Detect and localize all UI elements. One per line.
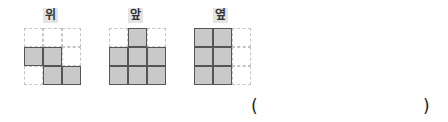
- filled-cell: [43, 66, 62, 85]
- top-view-grid: [24, 28, 81, 85]
- filled-cell: [194, 66, 213, 85]
- answer-blank[interactable]: [265, 96, 420, 116]
- filled-cell: [128, 28, 147, 47]
- empty-cell: [232, 47, 251, 66]
- answer-close-paren: ): [423, 96, 430, 116]
- filled-cell: [194, 28, 213, 47]
- empty-cell: [147, 28, 166, 47]
- front-view-label: 앞: [128, 8, 143, 23]
- empty-cell: [24, 28, 43, 47]
- front-view-grid: [109, 28, 166, 85]
- filled-cell: [213, 28, 232, 47]
- filled-cell: [213, 47, 232, 66]
- empty-cell: [232, 66, 251, 85]
- top-view-label: 위: [43, 8, 58, 23]
- filled-cell: [109, 66, 128, 85]
- filled-cell: [109, 47, 128, 66]
- empty-cell: [62, 47, 81, 66]
- empty-cell: [24, 66, 43, 85]
- side-view-grid: [194, 28, 251, 85]
- empty-cell: [232, 28, 251, 47]
- filled-cell: [147, 47, 166, 66]
- empty-cell: [62, 28, 81, 47]
- filled-cell: [128, 66, 147, 85]
- filled-cell: [43, 47, 62, 66]
- empty-cell: [109, 28, 128, 47]
- empty-cell: [43, 28, 62, 47]
- filled-cell: [128, 47, 147, 66]
- filled-cell: [194, 47, 213, 66]
- filled-cell: [62, 66, 81, 85]
- side-view-label: 옆: [213, 8, 228, 23]
- filled-cell: [213, 66, 232, 85]
- filled-cell: [24, 47, 43, 66]
- answer-open-paren: (: [251, 96, 258, 116]
- filled-cell: [147, 66, 166, 85]
